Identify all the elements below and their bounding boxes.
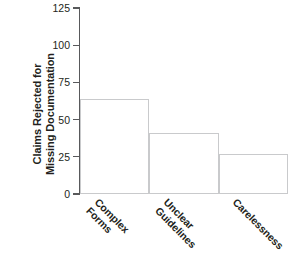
x-axis-category-labels: ComplexFormsUnclearGuidelinesCarelessnes…: [0, 196, 299, 266]
plot-area: [80, 8, 288, 194]
y-axis-tick-label: 75: [36, 77, 70, 87]
bar: [219, 154, 288, 194]
bar-chart: Claims Rejected for Missing Documentatio…: [0, 0, 299, 266]
y-axis-tick-label: 100: [36, 40, 70, 50]
y-axis-tick-mark: [73, 7, 80, 8]
y-axis-tick-mark: [73, 119, 80, 120]
y-axis-tick-mark: [73, 82, 80, 83]
y-axis-tick-mark: [73, 45, 80, 46]
x-axis-category-label-line: Carelessness: [231, 196, 299, 266]
x-axis-category-label: Carelessness: [231, 196, 299, 266]
y-axis-tick-mark: [73, 193, 80, 194]
y-axis-tick-mark: [73, 156, 80, 157]
bar: [149, 133, 218, 194]
y-axis-tick-label: 50: [36, 115, 70, 125]
y-axis-tick-label: 25: [36, 152, 70, 162]
bar: [80, 99, 149, 194]
y-axis-tick-label: 125: [36, 3, 70, 13]
